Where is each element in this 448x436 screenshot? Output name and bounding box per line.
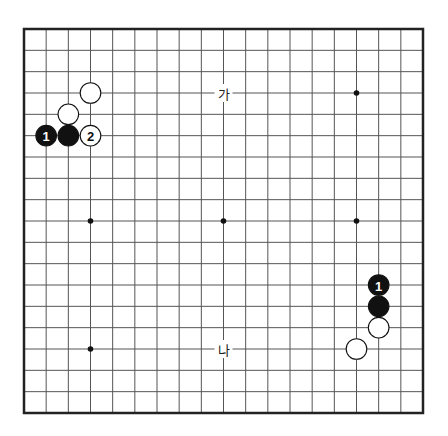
hoshi-dot [88,218,94,224]
white-stone [368,317,389,338]
position-marker-label: 가 [218,87,230,102]
move-number: 1 [43,129,50,144]
hoshi-dot [354,218,360,224]
white-stone [80,83,101,104]
white-stone [346,339,367,360]
hoshi-dot [221,218,227,224]
go-board: 가나 121 [0,0,448,436]
black-stone [368,296,389,317]
white-stone [58,104,79,125]
black-stone [58,125,79,146]
move-number: 2 [87,129,94,144]
position-marker-label: 나 [218,343,230,358]
black-stone: 1 [368,275,389,296]
hoshi-dot [88,346,94,352]
white-stone: 2 [80,125,101,146]
hoshi-dot [354,90,360,96]
black-stone: 1 [36,125,57,146]
move-number: 1 [375,279,382,294]
